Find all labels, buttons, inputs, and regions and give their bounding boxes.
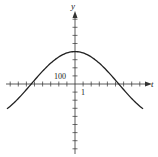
y-axis-arrow-icon: [73, 11, 78, 18]
x-axis-label: t: [151, 79, 154, 89]
y-axis-label: y: [70, 1, 75, 11]
x-tick-label: 1: [81, 88, 85, 97]
y-tick-label: 100: [54, 72, 66, 81]
chart: t y 100 1: [0, 0, 158, 157]
